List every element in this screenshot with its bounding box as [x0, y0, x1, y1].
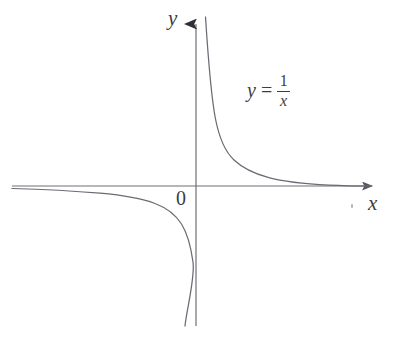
equation-fraction: 1 x	[277, 73, 290, 110]
fraction-numerator: 1	[278, 73, 290, 91]
equation-annotation: y = 1 x	[247, 72, 290, 109]
fraction-denominator: x	[278, 92, 289, 110]
y-axis-label: y	[168, 8, 177, 29]
plot-canvas	[0, 0, 403, 343]
curve-branch-negative	[12, 189, 193, 327]
x-axis-label: x	[368, 193, 377, 214]
scan-speck-artifact	[351, 204, 353, 208]
function-graph-figure: y x 0 y = 1 x	[0, 0, 403, 343]
equation-equals-sign: =	[261, 80, 272, 100]
equation-lhs: y	[247, 80, 256, 100]
origin-label: 0	[176, 188, 186, 208]
